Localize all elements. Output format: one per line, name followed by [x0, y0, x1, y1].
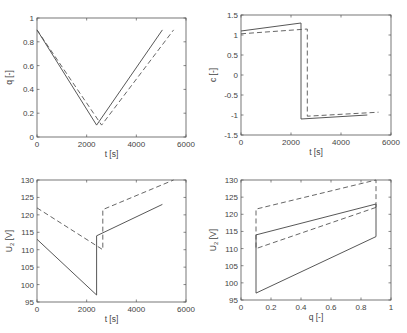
y-tick-label: 125: [225, 193, 239, 202]
y-tick-label: 0: [30, 133, 35, 142]
y-tick-label: 0.2: [23, 109, 35, 118]
y-tick-label: 100: [21, 281, 35, 290]
x-tick-label: 0: [35, 305, 40, 314]
x-tick-label: 0: [35, 140, 40, 149]
x-tick-label: 6000: [177, 305, 195, 314]
series-dashed: [37, 180, 174, 250]
x-tick-label: 2000: [282, 138, 300, 147]
x-tick-label: 2000: [78, 305, 96, 314]
y-tick-label: 120: [225, 210, 239, 219]
x-axis-label: t [s]: [105, 149, 119, 159]
series-solid: [256, 204, 376, 293]
y-tick-label: 115: [225, 227, 238, 236]
y-axis-label: q [-]: [4, 70, 14, 85]
axes-box: [37, 18, 186, 137]
plot-u2-vs-q: 00.20.40.60.8195100105110115120125130q […: [208, 176, 394, 322]
y-tick-label: 125: [21, 193, 35, 202]
y-tick-label: 105: [21, 263, 35, 272]
y-tick-label: -1.5: [224, 131, 238, 140]
y-axis-label: c [-]: [208, 68, 218, 82]
y-tick-label: 110: [225, 245, 238, 254]
y-tick-label: -0.5: [224, 91, 238, 100]
y-tick-label: 120: [21, 211, 35, 220]
y-tick-label: 0.5: [227, 51, 239, 60]
y-tick-label: 0: [234, 71, 239, 80]
y-tick-label: 1.5: [227, 11, 239, 20]
y-tick-label: 115: [21, 228, 34, 237]
plot-q-vs-t: 020004000600000.20.40.60.81t [s]q [-]: [4, 14, 195, 159]
y-tick-label: 0.6: [23, 62, 35, 71]
y-axis-label: U2 [V]: [208, 229, 219, 251]
x-tick-label: 4000: [127, 140, 145, 149]
y-tick-label: 95: [25, 298, 34, 307]
x-axis-label: q [-]: [309, 312, 324, 322]
y-tick-label: 110: [21, 246, 34, 255]
series-dashed: [241, 29, 379, 116]
plot-u2-vs-t: 020004000600095100105110115120125130t [s…: [4, 176, 195, 324]
axes-box: [37, 180, 186, 302]
x-tick-label: 0.6: [325, 303, 337, 312]
axes-box: [241, 15, 391, 135]
x-tick-label: 0.8: [355, 303, 367, 312]
y-tick-label: 1: [30, 14, 35, 23]
plot-c-vs-t: 0200040006000-1.5-1-0.500.511.5t [s]c [-…: [208, 11, 400, 157]
series-dashed: [37, 30, 174, 125]
x-tick-label: 4000: [127, 305, 145, 314]
y-tick-label: 100: [225, 279, 239, 288]
series-solid: [241, 23, 367, 119]
x-axis-label: t [s]: [105, 314, 119, 324]
x-tick-label: 0: [239, 303, 244, 312]
x-tick-label: 4000: [332, 138, 350, 147]
series-solid: [37, 204, 162, 295]
x-tick-label: 0: [239, 138, 244, 147]
series-dashed: [256, 180, 376, 249]
x-tick-label: 0.2: [265, 303, 277, 312]
y-tick-label: 130: [225, 176, 239, 185]
x-tick-label: 2000: [78, 140, 96, 149]
x-tick-label: 6000: [177, 140, 195, 149]
series-solid: [37, 30, 162, 125]
y-axis-label: U2 [V]: [4, 230, 15, 252]
y-tick-label: 95: [229, 296, 238, 305]
x-tick-label: 1: [389, 303, 394, 312]
y-tick-label: 0.8: [23, 38, 35, 47]
y-tick-label: 130: [21, 176, 35, 185]
x-tick-label: 6000: [382, 138, 400, 147]
y-tick-label: 1: [234, 31, 239, 40]
x-tick-label: 0.4: [295, 303, 307, 312]
y-tick-label: 0.4: [23, 85, 35, 94]
y-tick-label: -1: [231, 111, 239, 120]
y-tick-label: 105: [225, 262, 239, 271]
figure: 020004000600000.20.40.60.81t [s]q [-] 02…: [0, 0, 407, 333]
x-axis-label: t [s]: [309, 147, 323, 157]
